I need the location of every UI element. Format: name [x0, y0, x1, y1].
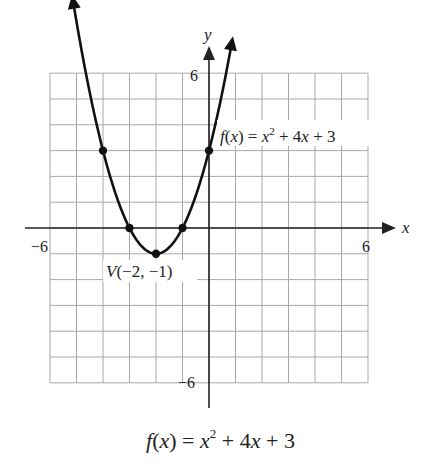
y-max-tick-label: 6 [190, 67, 198, 84]
x-axis-label: x [401, 218, 410, 237]
marked-point [99, 146, 107, 154]
vertex-label: V(−2, −1) [106, 262, 172, 281]
y-axis-label: y [202, 25, 212, 44]
axes [25, 46, 396, 408]
function-label: f(x) = x2 + 4x + 3 [220, 125, 335, 146]
marked-point [178, 224, 186, 232]
marked-point [205, 146, 213, 154]
parabola-chart: x y −6 6 6 −6 V(−2, −1) f(x) = x2 + 4x +… [0, 0, 441, 420]
marked-point [152, 250, 160, 258]
marked-point [125, 224, 133, 232]
x-min-tick-label: −6 [31, 238, 48, 255]
curve-left-arrow-icon [68, 0, 81, 10]
x-axis-arrow-icon [382, 222, 396, 234]
curve-right-arrow-icon [224, 36, 237, 51]
chart-caption: f(x) = x2 + 4x + 3 [0, 428, 441, 454]
y-min-tick-label: −6 [178, 374, 195, 391]
x-max-tick-label: 6 [362, 238, 370, 255]
y-axis-arrow-icon [203, 46, 215, 60]
caption-x: x [200, 428, 210, 453]
